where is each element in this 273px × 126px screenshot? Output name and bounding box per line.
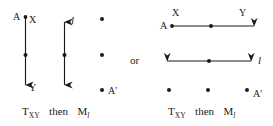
connector-or: or [130, 55, 139, 66]
right-translation-arrow [170, 24, 254, 28]
left-translation-arrow [24, 15, 28, 85]
right-label-y: Y [239, 8, 246, 18]
left-mirror-midpoint-dot [63, 53, 67, 57]
right-label-a-prime: A' [253, 89, 262, 99]
right-point-a-dot [170, 24, 174, 28]
left-label-line-l: l [71, 15, 74, 26]
left-mirror-line [63, 22, 67, 85]
right-result-dots [167, 88, 249, 92]
left-caption-connector: then [49, 105, 68, 117]
right-label-x: X [172, 8, 179, 18]
right-mirror-midpoint-dot [207, 59, 211, 63]
geometry-figure: A X Y l A' or A X Y l A' TXY then Ml TXY… [0, 0, 273, 126]
left-result-dot-3 [100, 88, 104, 92]
left-result-dots [100, 17, 104, 92]
left-result-dot-2 [100, 53, 104, 57]
right-result-dot-2 [206, 88, 210, 92]
right-caption: TXY then Ml [168, 106, 235, 117]
left-caption: TXY then Ml [22, 106, 89, 117]
left-label-point-a: A [13, 12, 20, 22]
right-result-dot-1 [167, 88, 171, 92]
right-result-dot-3 [245, 88, 249, 92]
right-mirror-line [167, 59, 251, 63]
left-label-y: Y [29, 83, 36, 93]
right-caption-m: M [224, 105, 234, 117]
right-caption-t-sub: XY [175, 111, 186, 120]
left-result-dot-1 [100, 17, 104, 21]
right-label-point-a: A [160, 21, 167, 31]
right-translation-midpoint-dot [209, 24, 213, 28]
right-caption-connector: then [195, 105, 214, 117]
right-label-line-l: l [258, 55, 261, 66]
left-caption-m: M [78, 105, 88, 117]
left-translation-midpoint-dot [24, 53, 28, 57]
left-caption-t: T [22, 105, 29, 117]
left-label-a-prime: A' [108, 86, 117, 96]
left-label-x: X [29, 15, 36, 25]
left-caption-t-sub: XY [29, 111, 40, 120]
right-caption-t: T [168, 105, 175, 117]
left-point-a-dot [24, 15, 28, 19]
